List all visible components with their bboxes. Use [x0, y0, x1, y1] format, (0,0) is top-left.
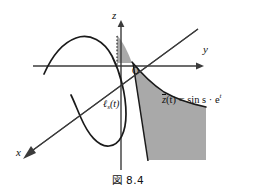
- line-label-argument: (t): [110, 98, 119, 109]
- origin-label: O: [132, 66, 139, 76]
- z-axis-arrow-icon: [118, 20, 125, 27]
- y-axis-arrow-icon: [196, 63, 204, 70]
- z-axis-label: z: [112, 10, 116, 21]
- shaded-region-sliver: [117, 35, 132, 63]
- line-label-ell-s-t: ℓs(t): [103, 99, 119, 111]
- figure-container: z y x O ℓs(t) z(t) = sin s · et 図 8.4: [0, 0, 256, 195]
- shaded-region-main: [133, 64, 206, 160]
- equation-body: (t) = sin s · e: [166, 94, 219, 105]
- figure-caption: 図 8.4: [0, 172, 256, 187]
- equation-exponent: t: [220, 92, 222, 100]
- equation-lhs-overbar: z: [162, 95, 166, 106]
- equation-label: z(t) = sin s · et: [162, 93, 222, 105]
- x-axis-label: x: [16, 147, 21, 158]
- y-axis-label: y: [203, 44, 208, 55]
